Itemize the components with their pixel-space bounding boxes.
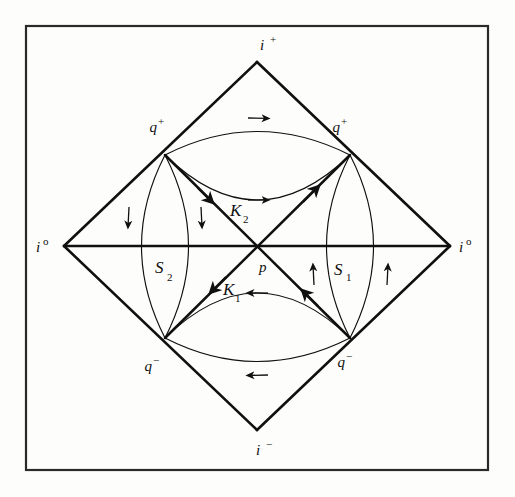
label-lower-left-node: q − [145,354,160,374]
label-upper-right-node: q + [333,115,348,135]
arrow-k2-lower [303,291,318,306]
label-lower-right-node-base: q [338,354,346,370]
label-region-right-base: S [334,260,343,279]
label-region-left-base: S [155,258,164,277]
figure-root: i + i − i o i o q + q + q [0,0,515,497]
upper-lens-inner-arc [165,155,350,200]
conformal-diagram-svg: i + i − i o i o q + q + q [0,0,515,497]
label-lower-right-node: q − [338,350,353,370]
label-top-vertex-script: + [270,33,276,45]
label-top-vertex: i + [260,33,276,53]
label-bottom-vertex-script: − [266,438,272,450]
label-left-vertex-base: i [36,239,40,255]
label-top-vertex-base: i [260,37,264,53]
right-lens-inner-arrow [313,265,314,285]
label-null-lower-script: 1 [235,292,241,304]
label-right-vertex: i o [459,235,472,255]
label-left-vertex-script: o [43,235,49,247]
label-null-lower: K 1 [222,280,241,304]
upper-lens [165,118,350,200]
label-null-upper-base: K [229,201,243,220]
label-null-upper-script: 2 [243,213,249,225]
label-region-left: S 2 [155,258,173,283]
upper-lens-outer-arc [165,132,350,156]
lower-lens [165,293,350,375]
lower-lens-outer-arc [165,338,350,362]
left-lens-inner-arrow [201,207,202,227]
label-upper-right-node-base: q [333,119,341,135]
label-upper-left-node-base: q [150,119,158,135]
label-upper-right-node-script: + [341,115,347,127]
label-center-point: p [258,259,267,275]
label-lower-left-node-script: − [153,354,159,366]
label-right-vertex-script: o [466,235,472,247]
label-null-lower-base: K [222,280,236,299]
label-bottom-vertex-base: i [256,442,260,458]
label-left-vertex: i o [36,235,49,255]
label-right-vertex-base: i [459,239,463,255]
arrow-k2-upper [198,188,212,202]
right-lens-outer-arrow [387,265,388,285]
label-region-right: S 1 [334,260,352,283]
label-upper-left-node: q + [150,115,165,135]
label-upper-left-node-script: + [158,115,164,127]
left-lens-outer-arrow [128,207,129,227]
label-region-right-script: 1 [346,271,352,283]
label-lower-right-node-script: − [346,350,352,362]
label-center-point-base: p [258,259,267,275]
label-region-left-script: 2 [167,271,173,283]
lower-lens-inner-arc [165,293,350,338]
label-lower-left-node-base: q [145,358,153,374]
label-bottom-vertex: i − [256,438,272,458]
arrow-k1-upper [303,187,318,202]
